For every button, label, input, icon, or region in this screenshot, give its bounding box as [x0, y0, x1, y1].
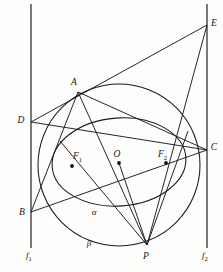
- point-label-F2: F2: [157, 149, 167, 160]
- segment-B-C: [31, 150, 207, 212]
- conic-label-beta: β: [86, 238, 92, 248]
- focal-ray-P-F2: [147, 131, 188, 245]
- geometry-canvas: A B C D E P O F1 F2 α β f1 f2: [0, 0, 223, 272]
- point-label-F1: F1: [72, 151, 82, 162]
- point-label-C: C: [211, 142, 218, 152]
- point-dot-F2: [164, 161, 168, 165]
- directrix-label-f2: f2: [202, 250, 208, 261]
- point-label-D: D: [17, 115, 25, 125]
- point-label-A: A: [70, 77, 77, 87]
- point-label-E: E: [210, 18, 217, 28]
- segment-O-P: [119, 163, 147, 245]
- geometry-figure: A B C D E P O F1 F2 α β f1 f2: [0, 0, 223, 272]
- directrix-label-f2-sub: 2: [205, 254, 208, 261]
- point-dot-F1: [70, 164, 74, 168]
- conic-label-alpha: α: [92, 207, 97, 217]
- directrix-label-f1: f1: [26, 250, 32, 261]
- point-label-B: B: [19, 207, 25, 217]
- directrix-label-f1-sub: 1: [29, 254, 32, 261]
- point-label-F2-sub: 2: [164, 153, 167, 160]
- segment-E-P: [147, 25, 207, 245]
- point-dot-O: [117, 161, 121, 165]
- point-label-F1-sub: 1: [79, 155, 82, 162]
- segment-D-E: [31, 25, 207, 122]
- point-label-P: P: [142, 251, 149, 261]
- segment-A-P: [78, 92, 147, 245]
- point-label-O: O: [114, 149, 121, 159]
